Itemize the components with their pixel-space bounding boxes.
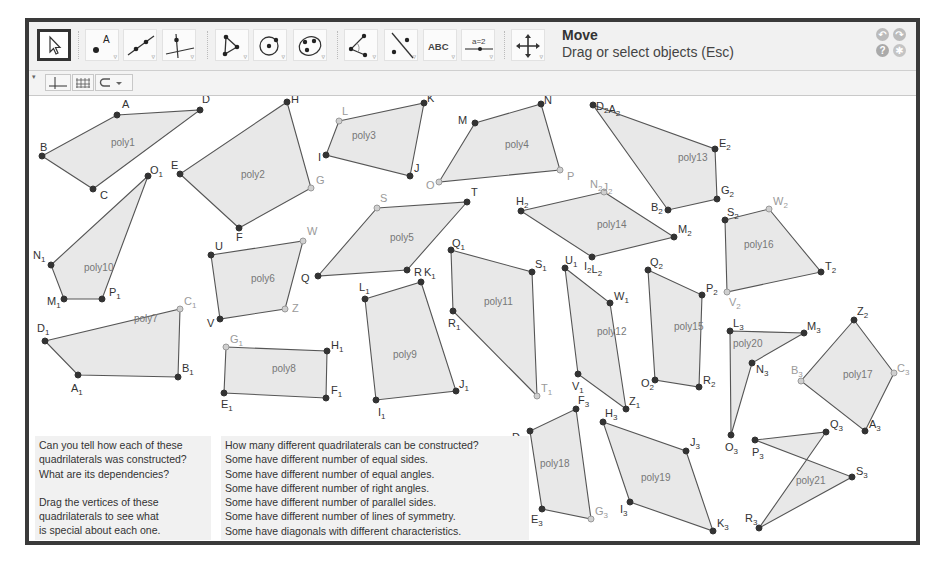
redo-icon[interactable]: ↷ bbox=[893, 28, 906, 41]
point-label: Z bbox=[292, 302, 299, 314]
vertex-point[interactable] bbox=[862, 428, 868, 434]
vertex-point[interactable] bbox=[573, 406, 579, 412]
polygon-poly1[interactable]: poly1ADCB bbox=[39, 96, 210, 201]
vertex-point[interactable] bbox=[177, 171, 183, 177]
vertex-point[interactable] bbox=[374, 205, 380, 211]
vertex-point[interactable] bbox=[336, 118, 342, 124]
vertex-point[interactable] bbox=[588, 516, 594, 522]
polygon-poly11[interactable]: poly11Q1S1T1R1 bbox=[448, 237, 553, 399]
move-graphics-view-tool-button[interactable]: ▿ bbox=[511, 29, 545, 61]
show-axes-toggle[interactable] bbox=[45, 74, 71, 91]
polygon-poly2[interactable]: poly2HGFE bbox=[171, 96, 325, 243]
undo-icon[interactable]: ↶ bbox=[876, 28, 889, 41]
vertex-point[interactable] bbox=[404, 267, 410, 273]
vertex-point[interactable] bbox=[282, 306, 288, 312]
vertex-point[interactable] bbox=[90, 186, 96, 192]
vertex-point[interactable] bbox=[284, 99, 290, 105]
vertex-point[interactable] bbox=[539, 506, 545, 512]
vertex-point[interactable] bbox=[851, 317, 857, 323]
vertex-point[interactable] bbox=[472, 120, 478, 126]
vertex-point[interactable] bbox=[607, 300, 613, 306]
vertex-point[interactable] bbox=[436, 179, 442, 185]
vertex-point[interactable] bbox=[407, 173, 413, 179]
polygon-poly15[interactable]: poly15Q2P2R2O2 bbox=[641, 256, 718, 392]
vertex-point[interactable] bbox=[315, 273, 321, 279]
vertex-point[interactable] bbox=[61, 296, 67, 302]
vertex-point[interactable] bbox=[418, 279, 424, 285]
graphics-view[interactable]: poly1ADCBpoly2HGFEpoly3LKJIpoly4MNPOpoly… bbox=[29, 96, 916, 541]
polygon-poly4[interactable]: poly4MNPO bbox=[426, 96, 574, 191]
vertex-point[interactable] bbox=[724, 289, 730, 295]
vertex-point[interactable] bbox=[714, 196, 720, 202]
polygon-poly21[interactable]: poly21P3Q3R3S3 bbox=[745, 418, 868, 531]
vertex-point[interactable] bbox=[752, 437, 758, 443]
point-label: B bbox=[40, 141, 47, 153]
vertex-point[interactable] bbox=[849, 474, 855, 480]
vertex-point[interactable] bbox=[683, 448, 689, 454]
vertex-point[interactable] bbox=[223, 344, 229, 350]
vertex-point[interactable] bbox=[99, 296, 105, 302]
vertex-point[interactable] bbox=[728, 432, 734, 438]
vertex-point[interactable] bbox=[823, 429, 829, 435]
vertex-point[interactable] bbox=[221, 390, 227, 396]
vertex-point[interactable] bbox=[766, 206, 772, 212]
vertex-point[interactable] bbox=[42, 338, 48, 344]
vertex-point[interactable] bbox=[665, 207, 671, 213]
vertex-point[interactable] bbox=[527, 428, 533, 434]
vertex-point[interactable] bbox=[114, 112, 120, 118]
vertex-point[interactable] bbox=[600, 419, 606, 425]
vertex-point[interactable] bbox=[696, 384, 702, 390]
polygon-poly19[interactable]: poly19H3J3K3I3 bbox=[600, 407, 729, 534]
vertex-point[interactable] bbox=[464, 199, 470, 205]
polygon-poly8[interactable]: poly8G1H1F1E1 bbox=[221, 333, 344, 413]
vertex-point[interactable] bbox=[589, 254, 595, 260]
polygon-tool-button[interactable]: ▿ bbox=[215, 29, 249, 61]
show-grid-toggle[interactable] bbox=[72, 74, 94, 91]
angle-tool-button[interactable]: ▿ bbox=[344, 29, 378, 61]
polygon-poly7[interactable]: poly7D1C1B1A1 bbox=[37, 295, 197, 397]
slider-tool-button[interactable]: a=2▿ bbox=[461, 29, 495, 61]
vertex-point[interactable] bbox=[712, 146, 718, 152]
vertex-point[interactable] bbox=[75, 372, 81, 378]
vertex-point[interactable] bbox=[323, 395, 329, 401]
vertex-point[interactable] bbox=[818, 269, 824, 275]
collapse-stylebar-icon[interactable]: ▾ bbox=[32, 73, 36, 81]
polygon-poly3[interactable]: poly3LKJI bbox=[318, 96, 435, 179]
vertex-point[interactable] bbox=[671, 234, 677, 240]
vertex-point[interactable] bbox=[450, 308, 456, 314]
vertex-point[interactable] bbox=[324, 348, 330, 354]
vertex-point[interactable] bbox=[177, 306, 183, 312]
text-tool-button[interactable]: ABC▿ bbox=[423, 29, 457, 61]
circle-tool-button[interactable]: ▿ bbox=[253, 29, 287, 61]
vertex-point[interactable] bbox=[627, 499, 633, 505]
line-tool-button[interactable]: ▿ bbox=[123, 29, 157, 61]
help-icon[interactable]: ? bbox=[876, 44, 889, 57]
vertex-point[interactable] bbox=[175, 374, 181, 380]
vertex-point[interactable] bbox=[323, 152, 329, 158]
vertex-point[interactable] bbox=[217, 316, 223, 322]
polygon-poly16[interactable]: poly16S2W2T2V2 bbox=[722, 195, 837, 311]
vertex-point[interactable] bbox=[534, 393, 540, 399]
move-tool-button[interactable] bbox=[37, 29, 71, 61]
vertex-point[interactable] bbox=[208, 252, 214, 258]
gear-icon[interactable]: ✱ bbox=[893, 44, 906, 57]
vertex-point[interactable] bbox=[308, 185, 314, 191]
vertex-point[interactable] bbox=[197, 107, 203, 113]
vertex-point[interactable] bbox=[300, 238, 306, 244]
point-tool-button[interactable]: A▿ bbox=[85, 29, 119, 61]
point-capturing-dropdown[interactable] bbox=[95, 74, 133, 91]
vertex-point[interactable] bbox=[710, 528, 716, 534]
vertex-point[interactable] bbox=[362, 296, 368, 302]
vertex-point[interactable] bbox=[749, 360, 755, 366]
point-label: M2 bbox=[678, 223, 692, 238]
vertex-point[interactable] bbox=[557, 167, 563, 173]
reflect-tool-button[interactable]: ▿ bbox=[384, 29, 418, 61]
vertex-point[interactable] bbox=[373, 397, 379, 403]
vertex-point[interactable] bbox=[48, 262, 54, 268]
vertex-point[interactable] bbox=[575, 371, 581, 377]
conic-tool-button[interactable]: ▿ bbox=[293, 29, 327, 61]
vertex-point[interactable] bbox=[699, 292, 705, 298]
perpendicular-line-tool-button[interactable]: ▿ bbox=[162, 29, 196, 61]
vertex-point[interactable] bbox=[39, 153, 45, 159]
polygon-poly10[interactable]: poly10O1P1M1N1 bbox=[33, 164, 164, 310]
